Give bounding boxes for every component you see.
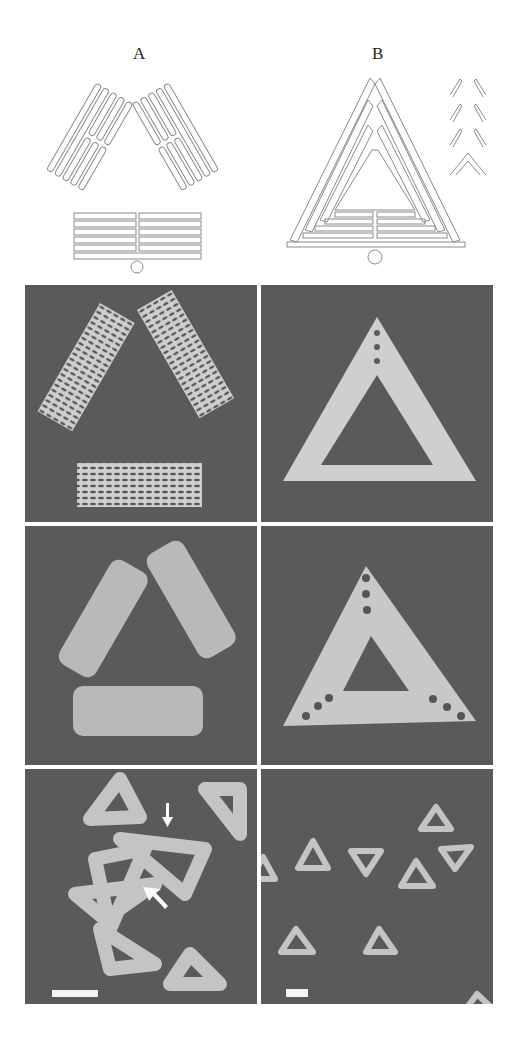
afm-zoom-panel-a: [25, 526, 257, 765]
schematic-b: [275, 70, 475, 275]
scale-bar-a: [52, 990, 98, 997]
schematic-b-inset: [448, 75, 488, 185]
afm-field-panel-a: [25, 769, 257, 1004]
model-panel-b: [261, 285, 493, 522]
scale-bar-b: [286, 989, 308, 997]
afm-field-panel-b: [261, 769, 493, 1004]
schematic-a: [30, 75, 245, 275]
column-label-b: B: [372, 44, 383, 64]
model-panel-a: [25, 285, 257, 522]
column-label-a: A: [133, 44, 145, 64]
afm-zoom-panel-b: [261, 526, 493, 765]
